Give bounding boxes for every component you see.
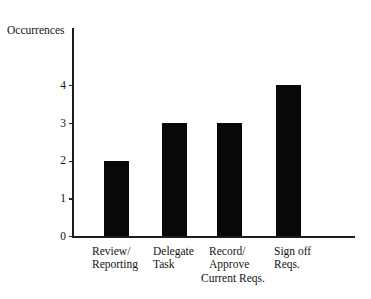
x-label-line: Task bbox=[153, 258, 194, 271]
x-label-line: Review/ bbox=[92, 245, 138, 258]
y-tick-label-3: 3 bbox=[44, 118, 66, 130]
x-label-line: Approve bbox=[209, 258, 249, 271]
x-label-line: Current Reqs. bbox=[201, 272, 265, 285]
x-label-line: Reqs. bbox=[274, 258, 311, 271]
y-axis-title: Occurrences bbox=[7, 24, 64, 37]
bar-sign-off-reqs[interactable] bbox=[276, 85, 301, 236]
x-label-line: Reporting bbox=[92, 258, 138, 271]
y-tick-label-1: 1 bbox=[44, 193, 66, 205]
bar-chart: Occurrences 0 1 2 3 4 Review/ Reporting … bbox=[0, 0, 371, 299]
x-label-record-approve: Record/ Approve Current Reqs. bbox=[209, 245, 249, 272]
bar-delegate-task[interactable] bbox=[162, 123, 187, 236]
plot-area bbox=[73, 28, 355, 236]
x-label-line: Sign off bbox=[274, 245, 311, 258]
x-label-review-reporting: Review/ Reporting bbox=[92, 245, 138, 272]
y-tick-label-0: 0 bbox=[44, 231, 66, 243]
bar-record-approve[interactable] bbox=[217, 123, 242, 236]
x-axis-line bbox=[72, 236, 355, 238]
x-label-line: Record/ bbox=[209, 245, 249, 258]
y-tick-label-2: 2 bbox=[44, 155, 66, 167]
x-label-delegate-task: Delegate Task bbox=[153, 245, 194, 272]
x-label-line: Delegate bbox=[153, 245, 194, 258]
x-label-sign-off-reqs: Sign off Reqs. bbox=[274, 245, 311, 272]
bar-review-reporting[interactable] bbox=[104, 161, 129, 237]
y-tick-label-4: 4 bbox=[44, 80, 66, 92]
